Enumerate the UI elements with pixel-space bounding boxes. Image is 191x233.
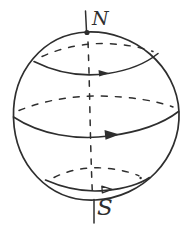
equator-back-arc	[19, 96, 173, 111]
ink-speck	[139, 177, 141, 179]
flow-arrow-equator-icon	[105, 130, 120, 140]
latitude-bottom-back-arc	[54, 168, 139, 178]
flow-arrow-top-icon	[99, 70, 110, 76]
flow-arrow-bottom-icon	[102, 186, 112, 193]
diagram-canvas	[0, 0, 191, 233]
equator-front-arc	[14, 112, 179, 138]
latitude-top-front-arc	[34, 54, 158, 75]
sphere-flow-diagram: N S	[0, 0, 191, 233]
rotation-axis-dashed-line	[88, 42, 93, 196]
south-pole-label: S	[97, 196, 113, 219]
north-axis-line	[86, 11, 87, 31]
north-pole-dot	[84, 30, 89, 35]
latitude-top-back-arc	[42, 44, 153, 57]
north-pole-label: N	[92, 9, 109, 28]
